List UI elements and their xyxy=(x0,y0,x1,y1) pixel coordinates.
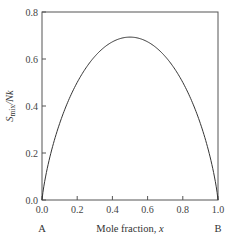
y-tick-label: 0.6 xyxy=(26,54,39,65)
y-tick-label: 0.2 xyxy=(26,148,39,159)
x-tick-label: 0.2 xyxy=(71,204,84,215)
plot-frame xyxy=(42,12,218,200)
end-label-a: A xyxy=(38,223,46,234)
chart-canvas: 0.00.20.40.60.81.0 0.00.20.40.60.8 Mole … xyxy=(0,0,230,240)
entropy-curve xyxy=(42,37,218,200)
y-tick-label: 0.0 xyxy=(26,195,39,206)
y-tick-label: 0.4 xyxy=(26,101,39,112)
x-axis-ticks: 0.00.20.40.60.81.0 xyxy=(36,196,225,215)
x-tick-label: 0.0 xyxy=(36,204,49,215)
x-tick-label: 0.6 xyxy=(141,204,154,215)
y-axis-label: Smix/Nk xyxy=(4,90,17,122)
x-axis-label: Mole fraction, x xyxy=(96,223,164,234)
y-tick-label: 0.8 xyxy=(26,7,39,18)
x-tick-label: 1.0 xyxy=(212,204,225,215)
end-label-b: B xyxy=(214,223,221,234)
x-tick-label: 0.4 xyxy=(106,204,119,215)
y-axis-ticks: 0.00.20.40.60.8 xyxy=(26,7,47,206)
x-tick-label: 0.8 xyxy=(177,204,190,215)
